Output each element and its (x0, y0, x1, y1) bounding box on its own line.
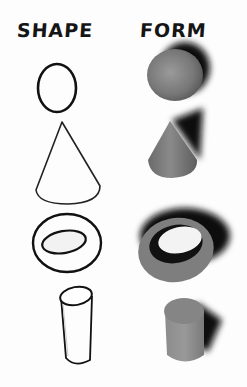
form-torus (132, 208, 230, 289)
form-cylinder (164, 298, 222, 362)
diagram-illustration (0, 0, 247, 387)
form-cone (148, 108, 203, 178)
shape-ring (33, 214, 101, 272)
shape-vs-form-diagram: SHAPE FORM (0, 0, 247, 387)
shape-cone (36, 122, 100, 204)
form-sphere (147, 42, 210, 101)
shape-cylinder (59, 284, 94, 363)
shape-oval (38, 64, 76, 112)
